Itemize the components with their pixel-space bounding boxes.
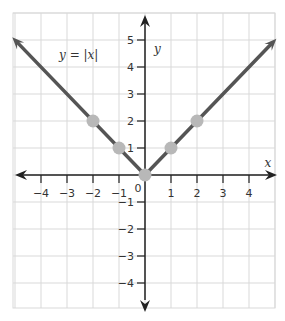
axes	[15, 15, 277, 312]
svg-text:x: x	[265, 156, 272, 170]
svg-text:−4: −4	[118, 277, 134, 290]
svg-text:−2: −2	[85, 187, 101, 200]
svg-text:1: 1	[168, 187, 175, 200]
svg-text:1: 1	[127, 142, 134, 155]
labels: −4−3−2−1123454321−1−2−3−40xyy = |x|	[33, 34, 272, 290]
svg-text:y = |x|: y = |x|	[58, 48, 98, 62]
svg-text:0: 0	[135, 182, 142, 195]
svg-text:−3: −3	[118, 250, 134, 263]
grid	[13, 13, 275, 308]
svg-text:2: 2	[127, 115, 134, 128]
svg-text:3: 3	[127, 88, 134, 101]
svg-text:2: 2	[194, 187, 201, 200]
svg-text:−1: −1	[118, 196, 134, 209]
svg-text:4: 4	[127, 61, 134, 74]
svg-text:y: y	[153, 42, 161, 56]
svg-text:−2: −2	[118, 223, 134, 236]
svg-text:−4: −4	[33, 187, 49, 200]
svg-text:−3: −3	[59, 187, 75, 200]
svg-text:3: 3	[220, 187, 227, 200]
svg-text:4: 4	[246, 187, 253, 200]
absolute-value-graph: −4−3−2−1123454321−1−2−3−40xyy = |x|	[0, 0, 285, 321]
svg-text:5: 5	[127, 34, 134, 47]
